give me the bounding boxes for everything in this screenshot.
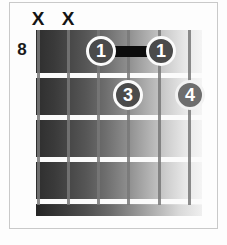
fretboard-bottom-band	[36, 205, 202, 216]
fret-line-4	[36, 199, 202, 204]
string-line-1	[37, 30, 40, 216]
finger-dot-4: 4	[175, 80, 205, 110]
finger-dot-1a: 1	[86, 36, 116, 66]
string-line-6	[188, 30, 191, 216]
chord-diagram: 8 X X 1 1 3 4	[0, 0, 227, 245]
fret-line-3	[36, 157, 202, 162]
finger-dot-3: 3	[113, 80, 143, 110]
fret-line-2	[36, 115, 202, 120]
starting-fret-label: 8	[12, 40, 32, 60]
finger-dot-1b: 1	[146, 36, 176, 66]
fretboard	[36, 30, 202, 216]
string-line-2	[67, 30, 70, 216]
barre-bar	[113, 46, 150, 57]
muted-string-marker-1: X	[29, 9, 47, 29]
muted-string-marker-2: X	[59, 9, 77, 29]
fret-line-1	[36, 73, 202, 78]
string-line-4	[127, 30, 130, 216]
